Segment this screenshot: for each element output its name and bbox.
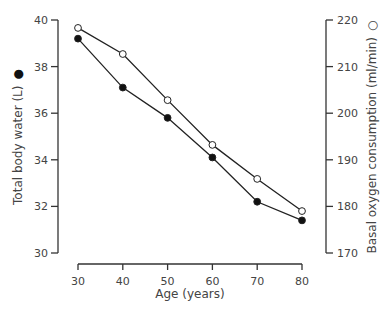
x-tick-label: 80 bbox=[295, 275, 309, 288]
x-axis: 304050607080 bbox=[71, 264, 309, 288]
open-data-point bbox=[119, 51, 126, 58]
x-axis-label: Age (years) bbox=[155, 287, 224, 301]
dual-axis-line-chart: 303234363840 170180190200210220 30405060… bbox=[0, 0, 390, 312]
open-data-point bbox=[75, 25, 82, 32]
data-series bbox=[75, 25, 306, 224]
x-tick-label: 30 bbox=[71, 275, 85, 288]
left-axis-label: Total body water (L)● bbox=[11, 69, 25, 206]
right-axis-label: Basal oxygen consumption (ml/min)○ bbox=[365, 21, 379, 254]
filled-data-point bbox=[299, 217, 306, 224]
filled-data-point bbox=[209, 154, 216, 161]
filled-data-point bbox=[119, 84, 126, 91]
left-y-axis: 303234363840 bbox=[34, 14, 58, 260]
left-tick-label: 34 bbox=[34, 154, 48, 167]
left-tick-label: 40 bbox=[34, 14, 48, 27]
right-tick-label: 180 bbox=[337, 200, 358, 213]
right-y-axis: 170180190200210220 bbox=[326, 14, 358, 260]
open-data-point bbox=[254, 176, 261, 183]
open-data-point bbox=[299, 208, 306, 215]
filled-data-point bbox=[164, 114, 171, 121]
right-tick-label: 210 bbox=[337, 61, 358, 74]
right-tick-label: 200 bbox=[337, 107, 358, 120]
filled-data-point bbox=[254, 198, 261, 205]
left-tick-label: 30 bbox=[34, 247, 48, 260]
open-data-point bbox=[164, 97, 171, 104]
x-tick-label: 40 bbox=[116, 275, 130, 288]
left-tick-label: 32 bbox=[34, 200, 48, 213]
open-circle-marker-icon: ○ bbox=[365, 21, 379, 31]
filled-circle-marker-icon: ● bbox=[11, 69, 25, 79]
filled-data-point bbox=[75, 35, 82, 42]
left-tick-label: 36 bbox=[34, 107, 48, 120]
x-tick-label: 70 bbox=[250, 275, 264, 288]
left-tick-label: 38 bbox=[34, 61, 48, 74]
right-tick-label: 220 bbox=[337, 14, 358, 27]
right-tick-label: 190 bbox=[337, 154, 358, 167]
open-data-point bbox=[209, 141, 216, 148]
right-tick-label: 170 bbox=[337, 247, 358, 260]
